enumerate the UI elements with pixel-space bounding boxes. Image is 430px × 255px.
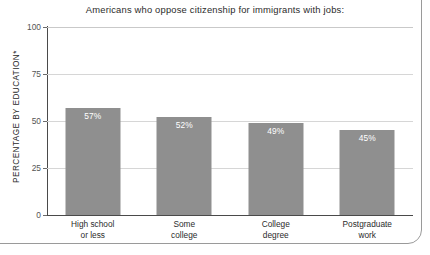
y-tick-label-50: 50: [11, 116, 41, 126]
x-label-line-2: college: [139, 230, 231, 241]
bar-some-college[interactable]: 52%: [157, 117, 212, 215]
bar-slot-some-college: 52%: [139, 27, 231, 215]
x-label-line-1: High school: [47, 219, 139, 230]
x-axis-category-labels: High school or less Some college College…: [47, 219, 413, 253]
bar-college-degree[interactable]: 49%: [248, 123, 303, 215]
bar-value-label: 45%: [340, 133, 395, 143]
x-axis-line: [47, 215, 413, 216]
x-label-line-1: Some: [139, 219, 231, 230]
x-label-postgraduate-work: Postgraduate work: [322, 219, 414, 240]
bar-value-label: 57%: [65, 111, 120, 121]
y-axis-tick-labels: 0 25 50 75 100: [8, 27, 41, 215]
bar-series: 57% 52% 49% 45%: [47, 27, 413, 215]
bar-postgraduate-work[interactable]: 45%: [340, 130, 395, 215]
x-label-line-2: or less: [47, 230, 139, 241]
chart-title: Americans who oppose citizenship for imm…: [0, 4, 430, 15]
x-label-line-1: College: [230, 219, 322, 230]
y-tick-label-25: 25: [11, 163, 41, 173]
x-label-line-1: Postgraduate: [322, 219, 414, 230]
bar-slot-postgraduate-work: 45%: [322, 27, 414, 215]
y-tick-label-100: 100: [11, 22, 41, 32]
x-label-line-2: degree: [230, 230, 322, 241]
bar-value-label: 49%: [248, 126, 303, 136]
bar-high-school-or-less[interactable]: 57%: [65, 108, 120, 215]
x-label-line-2: work: [322, 230, 414, 241]
bar-slot-college-degree: 49%: [230, 27, 322, 215]
y-tick-label-0: 0: [11, 210, 41, 220]
bar-value-label: 52%: [157, 120, 212, 130]
y-tick-mark-0: [43, 215, 47, 216]
x-label-high-school-or-less: High school or less: [47, 219, 139, 240]
bar-slot-high-school-or-less: 57%: [47, 27, 139, 215]
y-tick-label-75: 75: [11, 69, 41, 79]
x-label-college-degree: College degree: [230, 219, 322, 240]
chart-page: Americans who oppose citizenship for imm…: [0, 0, 430, 255]
x-label-some-college: Some college: [139, 219, 231, 240]
